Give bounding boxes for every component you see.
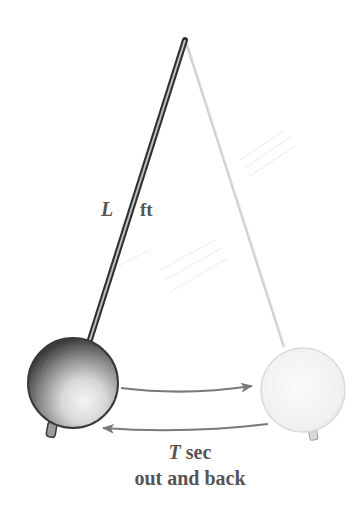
- right-rod: [186, 42, 285, 347]
- period-note: out and back: [110, 467, 270, 490]
- period-label: T sec: [110, 441, 270, 464]
- left-rod: [88, 40, 185, 346]
- background-shading: [110, 130, 295, 292]
- left-bob: [28, 338, 118, 438]
- right-bob: [261, 348, 345, 441]
- return-arrow: [103, 424, 268, 430]
- length-variable-label: L: [101, 198, 113, 221]
- period-unit: sec: [186, 441, 212, 463]
- outward-arrow: [121, 386, 252, 392]
- period-variable: T: [169, 441, 181, 463]
- length-unit-label: ft: [140, 199, 153, 221]
- pendulum-diagram: L ft T sec out and back: [0, 0, 359, 507]
